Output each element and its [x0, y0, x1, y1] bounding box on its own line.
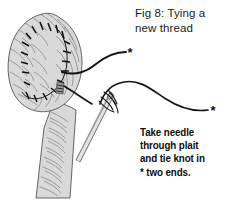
figure-title-line-1: Fig 8: Tying a	[135, 7, 205, 19]
plait-shape	[8, 13, 82, 198]
caption-line-3: and tie knot in	[140, 152, 228, 165]
caption-line-4: * two ends.	[140, 166, 228, 179]
thread-entry-knot	[56, 82, 64, 94]
asterisk-lower: *	[210, 103, 216, 118]
plait-tail-body	[36, 100, 76, 198]
needle-edge-left	[76, 93, 111, 160]
figure-caption: Take needle through plait and tie knot i…	[140, 126, 228, 179]
asterisk-upper: *	[127, 45, 133, 60]
figure-title-line-2: new thread	[135, 22, 193, 34]
asterisk-markers: * *	[127, 45, 216, 118]
threads	[62, 52, 208, 113]
needle-edge-right	[80, 95, 114, 162]
figure-title: Fig 8: Tying a new thread	[135, 6, 233, 35]
caption-line-1: Take needle	[140, 126, 228, 139]
caption-line-2: through plait	[140, 139, 228, 152]
